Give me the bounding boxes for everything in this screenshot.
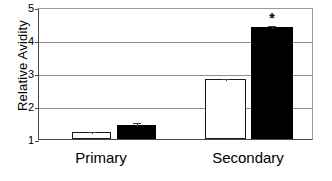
plot-area: * (38, 8, 313, 140)
bar-secondary-filled-bar (251, 27, 293, 139)
y-tick-label-2: 2 (18, 102, 34, 113)
y-tick-label-3: 3 (18, 69, 34, 80)
y-tick-mark-5 (35, 9, 39, 10)
y-tick-label-5: 5 (18, 3, 34, 14)
bar-chart-figure: Relative Avidity 5 4 3 2 1 * Primary Sec… (0, 0, 332, 181)
y-tick-label-1: 1 (18, 135, 34, 146)
bar-primary-filled-bar (117, 125, 156, 139)
y-tick-mark-1 (35, 141, 39, 142)
y-tick-mark-4 (35, 42, 39, 43)
x-tick-label-primary: Primary (75, 148, 127, 168)
error-bar-cap-secondary-filled-bar (268, 26, 276, 27)
x-tick-label-secondary: Secondary (212, 148, 284, 168)
error-bar-cap-primary-open-bar (88, 132, 96, 133)
x-axis-category-labels: Primary Secondary (38, 148, 313, 172)
y-tick-mark-3 (35, 75, 39, 76)
y-tick-label-4: 4 (18, 36, 34, 47)
error-bar-cap-secondary-open-bar (222, 79, 230, 80)
y-axis-tick-labels: 5 4 3 2 1 (18, 0, 34, 181)
bar-secondary-open-bar (205, 79, 246, 139)
error-bar-cap-primary-filled-bar (133, 123, 141, 124)
y-tick-mark-2 (35, 108, 39, 109)
significance-asterisk: * (269, 11, 274, 25)
